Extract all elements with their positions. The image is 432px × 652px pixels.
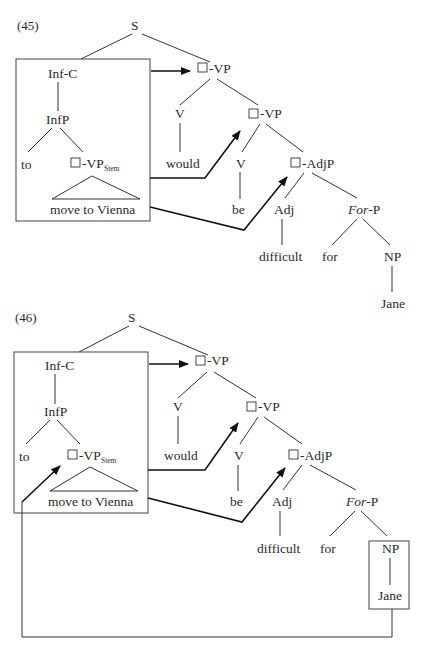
empty-head-square-icon (249, 109, 258, 118)
node-for-p: For-P (347, 202, 380, 217)
edge (330, 511, 355, 536)
edge (60, 128, 83, 152)
edge (312, 173, 357, 198)
edge (361, 511, 387, 536)
leaf-would: would (166, 156, 200, 171)
edge (264, 417, 302, 444)
movement-arrow (150, 177, 287, 230)
node-np: NP (382, 541, 399, 556)
node-vp-1: -VP (209, 61, 231, 76)
example-number: (46) (15, 310, 37, 325)
edge (217, 79, 258, 105)
empty-head-square-icon (68, 450, 77, 459)
node-adj: Adj (274, 202, 294, 217)
subscript-stem: Stem (101, 456, 117, 465)
movement-path (22, 502, 392, 637)
edge (81, 34, 132, 59)
empty-head-square-icon (196, 356, 205, 365)
node-infp: InfP (46, 112, 69, 127)
leaf-to: to (19, 449, 30, 464)
node-s: S (131, 18, 139, 33)
leaf-jane: Jane (381, 296, 405, 311)
tree-46: (46) S Inf-C InfP to -VP Stem move to Vi… (14, 310, 409, 637)
node-vp-2: -VP (260, 106, 282, 121)
node-for-p: For-P (345, 494, 378, 509)
example-number: (45) (17, 18, 39, 33)
node-vp-stem: -VP (79, 448, 101, 463)
edge (285, 173, 304, 198)
leaf-difficult: difficult (257, 541, 300, 556)
subscript-stem: Stem (104, 164, 120, 173)
node-adj: Adj (272, 494, 292, 509)
edge (178, 372, 207, 398)
leaf-move-to-vienna: move to Vienna (50, 202, 135, 217)
leaf-to: to (21, 157, 32, 172)
empty-head-square-icon (247, 402, 256, 411)
leaf-be: be (230, 494, 243, 509)
edge (283, 465, 302, 490)
leaf-would: would (164, 448, 198, 463)
leaf-for: for (320, 541, 336, 556)
edge (142, 34, 210, 62)
edge (26, 420, 50, 444)
edge (139, 326, 208, 355)
node-infp: InfP (44, 404, 67, 419)
empty-head-square-icon (71, 158, 80, 167)
edge (242, 124, 260, 152)
empty-head-square-icon (291, 158, 300, 167)
empty-head-square-icon (198, 63, 207, 72)
edge (28, 128, 52, 152)
node-v-1: V (175, 106, 185, 121)
node-s: S (128, 310, 136, 325)
node-v-2: V (236, 156, 246, 171)
node-inf-c: Inf-C (45, 358, 74, 373)
moved-constituent-box (16, 59, 150, 221)
node-adjp: -AdjP (300, 448, 332, 463)
tree-45: (45) S Inf-C InfP to -VP Stem move to Vi… (16, 18, 405, 311)
edge (332, 219, 357, 245)
edge (310, 465, 356, 490)
node-np: NP (384, 249, 401, 264)
leaf-be: be (232, 202, 245, 217)
empty-head-square-icon (289, 450, 298, 459)
leaf-difficult: difficult (259, 249, 302, 264)
leaf-move-to-vienna: move to Vienna (48, 494, 133, 509)
node-vp-stem: -VP (82, 156, 104, 171)
edge (240, 417, 258, 444)
triangle (52, 176, 140, 199)
moved-constituent-box (14, 352, 148, 513)
edge (214, 372, 256, 398)
leaf-jane: Jane (378, 588, 402, 603)
edge (79, 326, 129, 352)
node-v-2: V (234, 448, 244, 463)
syntax-tree-diagrams: (45) S Inf-C InfP to -VP Stem move to Vi… (0, 0, 432, 652)
node-inf-c: Inf-C (48, 66, 77, 81)
node-adjp: -AdjP (302, 156, 334, 171)
leaf-for: for (322, 249, 338, 264)
triangle (50, 467, 138, 491)
node-vp-1: -VP (207, 353, 229, 368)
edge (266, 124, 303, 152)
edge (180, 79, 210, 105)
node-v-1: V (173, 399, 183, 414)
movement-arrow (148, 468, 285, 522)
edge (57, 420, 80, 444)
node-vp-2: -VP (258, 399, 280, 414)
edge (363, 219, 390, 245)
